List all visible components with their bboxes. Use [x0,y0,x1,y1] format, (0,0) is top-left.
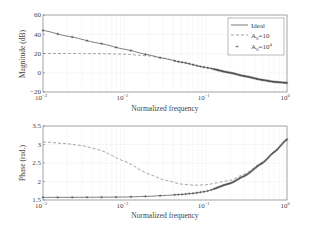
phase-ylabel: Phase (rad.) [18,145,27,181]
magnitude-subplot: −200204060 10−310−210−1100 Normalized fr… [18,11,290,113]
x-tick-label: 10−1 [198,201,210,210]
magnitude-xlabel: Normalized frequency [131,104,199,113]
ideal-curve [43,139,287,197]
magnitude-x-ticks: 10−310−210−1100 [35,93,290,102]
x-tick-label: 100 [280,93,290,102]
y-tick-label: 60 [34,11,42,19]
phase-xlabel: Normalized frequency [131,211,199,220]
x-tick-label: 10−3 [35,93,48,102]
a0-10-curve [43,139,287,185]
legend: Ideal A0=10 + A0=104 [228,18,284,55]
y-tick-label: 2 [38,178,42,186]
phase-subplot: 1.522.533.5 10−310−210−1100 Normalized f… [18,122,290,220]
legend-a10-label: A0=10 [251,32,270,41]
y-tick-label: 3 [38,141,42,149]
x-tick-label: 10−2 [116,93,128,102]
x-tick-label: 10−2 [116,201,128,210]
phase-grid [43,126,287,200]
x-tick-label: 10−1 [198,93,210,102]
a0-1e4-markers [42,138,289,199]
y-tick-label: 3.5 [32,122,41,130]
legend-ideal-label: Ideal [251,22,265,30]
bode-plot: −200204060 10−310−210−1100 Normalized fr… [0,0,310,230]
phase-x-ticks: 10−310−210−1100 [35,201,290,210]
legend-a104-label: A0=104 [251,42,273,52]
y-tick-label: 2.5 [32,159,41,167]
y-tick-label: 40 [34,31,42,39]
phase-curves [42,138,289,199]
y-tick-label: 20 [34,50,42,58]
magnitude-ylabel: Magnitude (dB) [18,29,27,78]
x-tick-label: 100 [280,201,290,210]
plus-marker-icon: + [235,43,239,51]
x-tick-label: 10−3 [35,201,48,210]
y-tick-label: 0 [38,69,42,77]
